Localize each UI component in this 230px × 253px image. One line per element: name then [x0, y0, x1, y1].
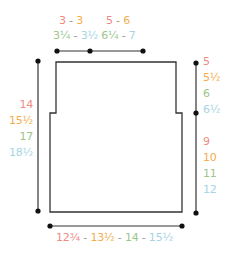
right-lower-size2: 10 — [203, 152, 217, 164]
top-label-row1-left: 3 - 3 — [59, 15, 83, 27]
left-label-size3: 17 — [19, 131, 33, 143]
right-upper-size2: 5½ — [203, 72, 220, 84]
right-upper-size3: 6 — [203, 88, 210, 100]
top-label-row1-right: 5 - 6 — [106, 15, 130, 27]
left-label-size1: 14 — [19, 99, 33, 111]
garment-outline — [50, 62, 182, 212]
left-label-size2: 15½ — [9, 115, 33, 127]
bottom-label: 12¾ - 13½ - 14 - 15½ — [56, 232, 173, 244]
right-lower-size4: 12 — [203, 184, 217, 196]
right-upper-size1: 5 — [203, 56, 210, 68]
left-label-size4: 18½ — [9, 147, 33, 159]
top-label-row2: 3¼ - 3½ 6¼ - 7 — [53, 30, 136, 42]
right-lower-size1: 9 — [203, 136, 210, 148]
right-upper-size4: 6½ — [203, 104, 220, 116]
right-lower-size3: 11 — [203, 168, 217, 180]
